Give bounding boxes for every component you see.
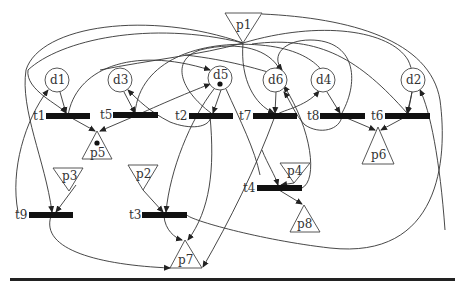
label-t7: t7 (239, 109, 251, 123)
label-t5: t5 (100, 108, 112, 122)
label-d5: d5 (213, 68, 228, 82)
label-p5: p5 (90, 146, 105, 160)
transition-t2 (189, 113, 233, 119)
transition-t9 (29, 212, 73, 218)
arc-d2-t6 (408, 92, 412, 113)
arc-p2-t3 (143, 190, 163, 212)
transition-t4 (257, 185, 302, 191)
petri-net-diagram: t1 t5 t2 t7 t8 t6 t9 t3 t4 d1 d3 d5 d6 d… (0, 0, 465, 289)
label-d3: d3 (113, 73, 128, 87)
label-d2: d2 (406, 73, 421, 87)
arc-t2-d3 (128, 90, 211, 127)
transition-t8 (320, 113, 365, 119)
label-t3: t3 (129, 208, 141, 222)
label-t2: t2 (175, 109, 187, 123)
label-p2: p2 (136, 167, 151, 181)
arc-t4-p8 (279, 190, 302, 204)
label-t4: t4 (243, 181, 256, 195)
arc-d6-t7 (275, 92, 276, 113)
arc-d5-t3 (166, 89, 214, 212)
label-d6: d6 (268, 73, 283, 87)
label-t6: t6 (371, 109, 383, 123)
arc-t1-d5 (68, 60, 210, 116)
label-p7: p7 (178, 253, 193, 267)
arc-p4-t4 (281, 183, 294, 185)
label-p3: p3 (62, 169, 77, 183)
transition-labels: t1 t5 t2 t7 t8 t6 t9 t3 t4 (15, 108, 383, 222)
label-p4: p4 (287, 164, 303, 178)
token-p5 (94, 140, 99, 145)
bottom-rule (10, 278, 455, 281)
label-t1: t1 (33, 109, 45, 123)
arc-d5-t4 (226, 89, 260, 175)
label-t9: t9 (15, 208, 27, 222)
transition-t5 (113, 112, 158, 118)
label-p6: p6 (371, 148, 386, 162)
transition-t3 (142, 212, 187, 218)
arc-d4-t8 (327, 92, 340, 113)
arc-t3-p7 (164, 216, 182, 240)
arc-d5-t2 (213, 90, 221, 113)
label-p8: p8 (297, 217, 312, 231)
transition-t7 (253, 113, 297, 119)
label-d4: d4 (316, 73, 332, 87)
arc-loop-right (187, 14, 442, 249)
transition-t1 (46, 113, 90, 119)
arc-t9-p7 (50, 216, 170, 268)
transition-t6 (385, 113, 430, 119)
label-p1: p1 (236, 18, 251, 32)
label-d1: d1 (50, 73, 65, 87)
arc-d5-t4b (262, 150, 278, 185)
arc-p3-t9 (56, 185, 76, 212)
arc-t7-p7 (203, 116, 275, 267)
token-d5 (217, 81, 222, 86)
label-t8: t8 (307, 109, 319, 123)
